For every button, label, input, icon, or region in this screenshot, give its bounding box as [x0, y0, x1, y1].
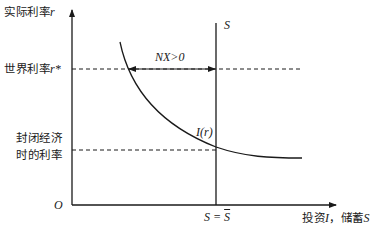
x-axis-separator: ， — [329, 211, 341, 225]
x-axis-invest-text: 投资 — [302, 211, 325, 225]
x-axis-save-var: S — [364, 211, 370, 225]
y-axis-variable: r — [50, 5, 55, 19]
diagram-canvas: 实际利率r 世界利率r* 封闭经济 时的利率 O S NX>0 I(r) S =… — [0, 0, 381, 236]
saving-fixed-bar: S — [224, 210, 230, 224]
closed-rate-label-line1: 封闭经济 — [16, 131, 62, 145]
x-axis-save-text: 储蓄 — [341, 211, 364, 225]
y-axis-label: 实际利率r — [4, 5, 55, 19]
investment-curve-label: I(r) — [196, 125, 213, 139]
x-axis-label: 投资I，储蓄S — [302, 211, 370, 225]
saving-fixed-left: S = — [204, 210, 224, 224]
world-rate-label: 世界利率r* — [4, 62, 61, 76]
net-exports-label: NX>0 — [155, 50, 184, 64]
world-rate-label-text: 世界利率 — [4, 62, 50, 76]
y-axis-label-text: 实际利率 — [4, 5, 50, 19]
saving-line-label: S — [224, 18, 230, 32]
world-rate-variable: r* — [50, 62, 61, 76]
saving-fixed-label: S = S — [204, 210, 230, 224]
closed-rate-label: 封闭经济 时的利率 — [16, 131, 62, 162]
origin-label: O — [54, 198, 63, 212]
investment-curve — [120, 42, 302, 158]
closed-rate-label-line2: 时的利率 — [16, 148, 62, 162]
